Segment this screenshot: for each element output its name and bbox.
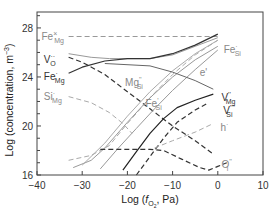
series-line-11 [136, 103, 208, 175]
series-label-3: Si·Mg [44, 90, 62, 105]
y-tick-label: 16 [22, 170, 34, 181]
series-line-13 [100, 149, 227, 170]
series-label-5: Fe'Si [146, 97, 163, 111]
series-line-12 [155, 124, 214, 149]
x-tick-label: 10 [257, 180, 269, 191]
y-tick-label: 20 [22, 121, 34, 132]
defect-concentration-chart: Fe×MgV··OFe·MgSi·MgMg''SiFe'SiFe·Sie'V''… [0, 0, 276, 211]
y-tick-label: 24 [22, 72, 34, 83]
series-line-9 [105, 64, 214, 90]
x-tick-label: −20 [119, 180, 136, 191]
series-line-10 [123, 94, 213, 170]
x-axis-label: Log (fO2, Pa) [121, 193, 178, 209]
series-label-6: Fe·Si [224, 43, 242, 57]
series-line-2 [69, 57, 214, 154]
x-tick-label: −10 [164, 180, 181, 191]
series-label-11: O''i [221, 158, 231, 172]
x-tick-label: −40 [29, 180, 46, 191]
series-line-1 [69, 38, 218, 59]
chart-svg: Fe×MgV··OFe·MgSi·MgMg''SiFe'SiFe·Sie'V''… [0, 0, 276, 211]
series-label-1: V··O [44, 53, 56, 67]
y-axis-label: Log (concentration, m−3) [3, 43, 15, 156]
series-label-9: V''''Si [223, 104, 235, 118]
series-label-10: h· [221, 121, 229, 133]
series-label-4: Mg''Si [125, 76, 143, 90]
x-tick-label: −30 [74, 180, 91, 191]
series-label-2: Fe·Mg [44, 70, 65, 85]
x-tick-label: 0 [215, 180, 221, 191]
series-label-0: Fe×Mg [42, 30, 65, 45]
y-tick-label: 28 [22, 23, 34, 34]
series-label-7: e' [200, 67, 208, 78]
